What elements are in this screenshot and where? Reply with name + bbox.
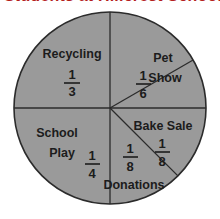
slice-fraction-denominator-pet-show: 6: [139, 86, 146, 101]
pie-chart-figure: Students at Hillcrest School Recycling 1…: [0, 0, 220, 219]
slice-name-school-play-line2: Play: [49, 146, 75, 160]
slice-fraction-denominator-school-play: 4: [88, 166, 96, 181]
slice-fraction-numerator-recycling: 1: [68, 67, 75, 82]
slice-fraction-denominator-bake-sale: 8: [158, 154, 165, 169]
slice-fraction-denominator-recycling: 3: [68, 84, 75, 99]
slice-name-school-play-line1: School: [36, 126, 78, 140]
slice-fraction-numerator-school-play: 1: [88, 148, 95, 163]
slice-name-pet-show-line1: Pet: [153, 51, 173, 65]
slice-fraction-denominator-donations: 8: [126, 159, 133, 174]
pie-chart-svg: Recycling 1 3 Pet Show 1 6 Bake Sale 1 8…: [0, 0, 220, 219]
slice-name-pet-show-line2: Show: [148, 71, 182, 85]
slice-name-donations: Donations: [103, 178, 164, 192]
slice-name-recycling: Recycling: [42, 47, 101, 61]
slice-name-bake-sale: Bake Sale: [133, 119, 192, 133]
slice-fraction-numerator-donations: 1: [126, 141, 133, 156]
slice-fraction-numerator-bake-sale: 1: [158, 136, 165, 151]
slice-fraction-numerator-pet-show: 1: [139, 68, 146, 83]
